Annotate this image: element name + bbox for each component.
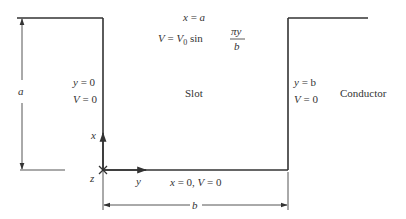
svg-text:y = b: y = b — [293, 76, 317, 88]
diagram-canvas: a b x y z x = a V = V0 sin — [0, 0, 406, 219]
eq2-denominator: b — [234, 40, 240, 52]
right-wall-condition: y = b V = 0 — [293, 76, 318, 105]
dimension-a-label: a — [18, 85, 24, 97]
svg-text:V = 0: V = 0 — [73, 93, 97, 105]
eq2-numerator: πy — [231, 25, 242, 37]
svg-text:V = V0 sin: V = V0 sin — [158, 32, 203, 47]
svg-text:x = a: x = a — [182, 11, 206, 23]
eq1-rhs: a — [200, 11, 206, 23]
z-axis-label: z — [89, 172, 95, 184]
svg-text:V = 0: V = 0 — [294, 93, 318, 105]
left-wall-condition: y = 0 V = 0 — [72, 76, 97, 105]
coordinate-axes — [99, 133, 146, 174]
eq2-eq: = — [165, 32, 177, 44]
dimension-a — [20, 19, 65, 170]
eq1-eq: = — [188, 11, 200, 23]
y-axis-label: y — [135, 175, 141, 187]
conductor-label: Conductor — [340, 87, 387, 99]
svg-text:y = 0: y = 0 — [72, 76, 96, 88]
x-axis-label: x — [90, 129, 96, 141]
top-boundary-condition: x = a V = V0 sin πy b — [158, 11, 245, 52]
slot-diagram: a b x y z x = a V = V0 sin — [0, 0, 406, 219]
eq2-func: sin — [187, 32, 203, 44]
dimension-b-label: b — [192, 199, 198, 211]
bottom-boundary-condition: x = 0, V = 0 — [169, 176, 222, 188]
slot-label: Slot — [185, 87, 203, 99]
